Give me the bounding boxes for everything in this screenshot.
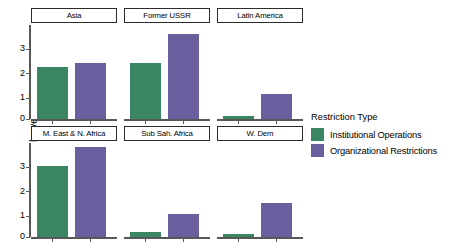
bar-middle-east-north-africa-institutional-operations: [37, 166, 68, 237]
x-tick-former-ussr-0: [145, 120, 146, 124]
x-tick-western-democracies-0: [238, 238, 239, 242]
x-tick-sub-saharan-africa-1: [183, 238, 184, 242]
panel-sub-saharan-africa: [124, 143, 210, 237]
legend-title: Restriction Type: [311, 112, 459, 122]
panel-asia: [31, 25, 117, 119]
y-tick-3-top: [26, 49, 30, 50]
y-tick-label-2-bottom: 2: [13, 187, 25, 196]
bar-sub-saharan-africa-organizational-restrictions: [168, 214, 199, 237]
facet-former-ussr: Former USSR: [124, 8, 210, 126]
x-tick-asia-0: [52, 120, 53, 124]
x-tick-latin-america-0: [238, 120, 239, 124]
x-axis-sub-saharan-africa: [124, 237, 210, 239]
y-tick-1-bottom: [26, 216, 30, 217]
y-tick-2-bottom: [26, 191, 30, 192]
x-tick-asia-1: [90, 120, 91, 124]
bar-asia-organizational-restrictions: [75, 63, 106, 119]
bar-former-ussr-organizational-restrictions: [168, 34, 199, 119]
y-tick-label-2-top: 2: [13, 69, 25, 78]
bar-western-democracies-organizational-restrictions: [261, 203, 292, 237]
bar-former-ussr-institutional-operations: [130, 63, 161, 119]
panel-western-democracies: [217, 143, 303, 237]
y-tick-3-bottom: [26, 167, 30, 168]
legend-label-institutional-operations: Institutional Operations: [330, 130, 422, 140]
facet-row-top: 3 2 1 0 Asia Fo: [31, 8, 303, 126]
facet-label-latin-america: Latin America: [217, 8, 303, 23]
y-tick-0-top: [26, 119, 30, 120]
legend: Restriction Type Institutional Operation…: [311, 112, 459, 160]
facet-label-middle-east-north-africa: M. East & N. Africa: [31, 126, 117, 141]
legend-swatch-organizational-restrictions: [311, 144, 324, 157]
y-tick-1-top: [26, 98, 30, 99]
bar-middle-east-north-africa-organizational-restrictions: [75, 147, 106, 237]
legend-swatch-institutional-operations: [311, 128, 324, 141]
facet-label-western-democracies: W. Dem: [217, 126, 303, 141]
x-tick-western-democracies-1: [276, 238, 277, 242]
y-tick-0-bottom: [26, 237, 30, 238]
legend-item-organizational-restrictions[interactable]: Organizational Restrictions: [311, 144, 459, 157]
y-tick-label-1-top: 1: [13, 93, 25, 102]
facet-label-asia: Asia: [31, 8, 117, 23]
x-tick-middle-east-north-africa-0: [52, 238, 53, 242]
x-tick-latin-america-1: [276, 120, 277, 124]
facet-asia: Asia: [31, 8, 117, 126]
bar-latin-america-organizational-restrictions: [261, 94, 292, 119]
x-axis-middle-east-north-africa: [31, 237, 117, 239]
facet-grid: 3 2 1 0 Asia Fo: [31, 8, 303, 244]
panel-former-ussr: [124, 25, 210, 119]
x-tick-former-ussr-1: [183, 120, 184, 124]
legend-label-organizational-restrictions: Organizational Restrictions: [330, 146, 437, 156]
x-axis-latin-america: [217, 119, 303, 121]
facet-sub-saharan-africa: Sub Sah. Africa: [124, 126, 210, 244]
legend-item-institutional-operations[interactable]: Institutional Operations: [311, 128, 459, 141]
facet-middle-east-north-africa: M. East & N. Africa: [31, 126, 117, 244]
y-tick-label-0-top: 0: [13, 114, 25, 123]
x-axis-asia: [31, 119, 117, 121]
facet-row-bottom: 3 2 1 0 M. East & N. Africa: [31, 126, 303, 244]
facet-label-former-ussr: Former USSR: [124, 8, 210, 23]
y-tick-2-top: [26, 73, 30, 74]
y-tick-label-0-bottom: 0: [13, 232, 25, 241]
panel-latin-america: [217, 25, 303, 119]
y-tick-label-3-bottom: 3: [13, 162, 25, 171]
y-tick-label-1-bottom: 1: [13, 211, 25, 220]
facet-latin-america: Latin America: [217, 8, 303, 126]
x-tick-middle-east-north-africa-1: [90, 238, 91, 242]
y-tick-label-3-top: 3: [13, 44, 25, 53]
x-axis-former-ussr: [124, 119, 210, 121]
bar-asia-institutional-operations: [37, 67, 68, 119]
panel-middle-east-north-africa: [31, 143, 117, 237]
faceted-bar-chart: Average Level of Restrictions 3 2 1 0 As…: [0, 0, 461, 250]
x-axis-western-democracies: [217, 237, 303, 239]
x-tick-sub-saharan-africa-0: [145, 238, 146, 242]
facet-western-democracies: W. Dem: [217, 126, 303, 244]
facet-label-sub-saharan-africa: Sub Sah. Africa: [124, 126, 210, 141]
